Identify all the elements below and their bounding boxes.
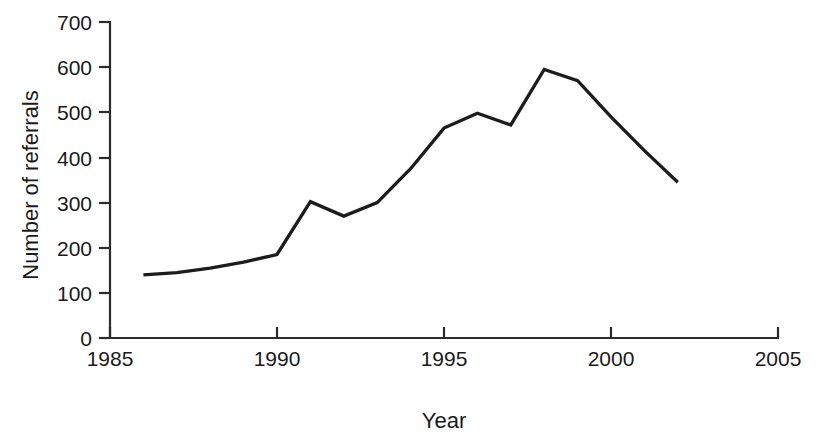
- x-tick-label-1990: 1990: [254, 347, 301, 370]
- y-tick-label-300: 300: [57, 192, 92, 215]
- y-tick-label-400: 400: [57, 147, 92, 170]
- chart-figure: Number of referrals Year 700 600 500 400…: [0, 0, 824, 434]
- line-chart-svg: Number of referrals Year 700 600 500 400…: [0, 0, 824, 434]
- x-tick-label-2000: 2000: [588, 347, 635, 370]
- y-tick-label-100: 100: [57, 282, 92, 305]
- x-tick-label-2005: 2005: [755, 347, 802, 370]
- y-tick-label-200: 200: [57, 237, 92, 260]
- y-axis-tick-labels: 700 600 500 400 300 200 100 0: [57, 11, 92, 350]
- x-axis-tick-labels: 1985 1990 1995 2000 2005: [87, 347, 802, 370]
- x-tick-label-1985: 1985: [87, 347, 134, 370]
- y-axis-ticks: [99, 22, 110, 338]
- referrals-line-series: [143, 69, 677, 274]
- x-tick-label-1995: 1995: [421, 347, 468, 370]
- y-tick-label-500: 500: [57, 101, 92, 124]
- y-axis-title: Number of referrals: [18, 90, 43, 280]
- x-axis-title: Year: [422, 408, 466, 433]
- y-tick-label-600: 600: [57, 56, 92, 79]
- y-tick-label-700: 700: [57, 11, 92, 34]
- x-axis-ticks: [110, 327, 778, 338]
